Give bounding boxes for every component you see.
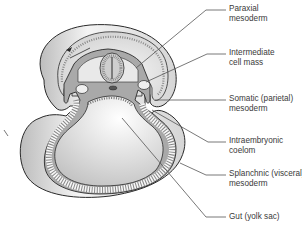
label-line: Intraembryonic — [229, 136, 283, 146]
label-line: mesoderm — [229, 14, 268, 24]
embryo-cross-section-diagram — [0, 0, 302, 231]
label-line: Somatic (parietal) — [229, 94, 293, 104]
label-line: mesoderm — [229, 179, 302, 189]
intermediate-cell-mass-left — [76, 85, 88, 94]
label-somatic-mesoderm: Somatic (parietal) mesoderm — [229, 94, 293, 114]
label-line: Paraxial — [229, 4, 268, 14]
label-line: Gut (yolk sac) — [229, 212, 280, 222]
notochord — [109, 86, 117, 90]
label-gut-yolk-sac: Gut (yolk sac) — [229, 212, 280, 222]
label-splanchnic-mesoderm: Splanchnic (visceral) mesoderm — [229, 169, 302, 189]
label-intermediate-cell-mass: Intermediate cell mass — [229, 48, 275, 68]
label-line: Splanchnic (visceral) — [229, 169, 302, 179]
leader-splanchnic — [180, 163, 226, 175]
label-paraxial-mesoderm: Paraxial mesoderm — [229, 4, 268, 24]
intermediate-cell-mass-right — [138, 81, 150, 90]
label-line: Intermediate — [229, 48, 275, 58]
label-line: coelom — [229, 146, 283, 156]
label-line: cell mass — [229, 58, 275, 68]
label-line: mesoderm — [229, 104, 293, 114]
stray-mark — [4, 130, 8, 136]
label-intraembryonic-coelom: Intraembryonic coelom — [229, 136, 283, 156]
